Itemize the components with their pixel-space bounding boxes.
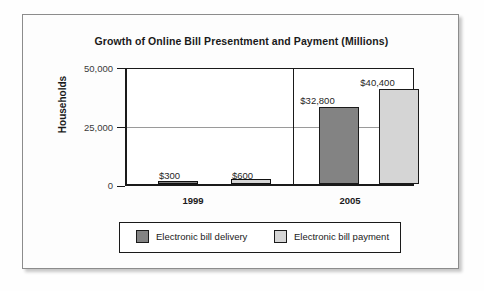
x-category-label-2005: 2005	[320, 195, 380, 206]
legend-label-payment: Electronic bill payment	[294, 231, 389, 242]
legend-label-delivery: Electronic bill delivery	[156, 231, 247, 242]
y-tick-mark-0	[117, 186, 125, 187]
y-tick-label-0: 0	[61, 180, 113, 191]
y-tick-label-50000: 50,000	[61, 63, 113, 74]
x-category-label-1999: 1999	[163, 195, 223, 206]
bar-value-1999-payment: $600	[205, 170, 280, 181]
gridline-25000	[127, 127, 413, 128]
bar-value-2005-delivery: $32,800	[280, 95, 355, 106]
y-tick-label-25000: 25,000	[61, 122, 113, 133]
bar-value-1999-delivery: $300	[132, 170, 207, 181]
chart-card-inner: Growth of Online Bill Presentment and Pa…	[23, 15, 458, 268]
group-divider-line	[293, 69, 294, 184]
y-tick-mark-50000	[117, 68, 125, 69]
bar-value-2005-payment: $40,400	[340, 77, 415, 88]
chart-legend: Electronic bill delivery Electronic bill…	[119, 222, 401, 253]
screenshot-canvas: Growth of Online Bill Presentment and Pa…	[0, 0, 484, 291]
bar-2005-payment	[379, 89, 419, 184]
bar-2005-delivery	[319, 107, 359, 184]
y-tick-mark-25000	[117, 127, 125, 128]
chart-card: Growth of Online Bill Presentment and Pa…	[22, 14, 459, 269]
legend-item-payment[interactable]: Electronic bill payment	[274, 230, 389, 243]
legend-swatch-delivery-icon	[136, 230, 149, 243]
legend-item-delivery[interactable]: Electronic bill delivery	[136, 230, 247, 243]
legend-swatch-payment-icon	[274, 230, 287, 243]
bar-1999-delivery	[158, 181, 198, 184]
chart-title: Growth of Online Bill Presentment and Pa…	[23, 35, 460, 47]
